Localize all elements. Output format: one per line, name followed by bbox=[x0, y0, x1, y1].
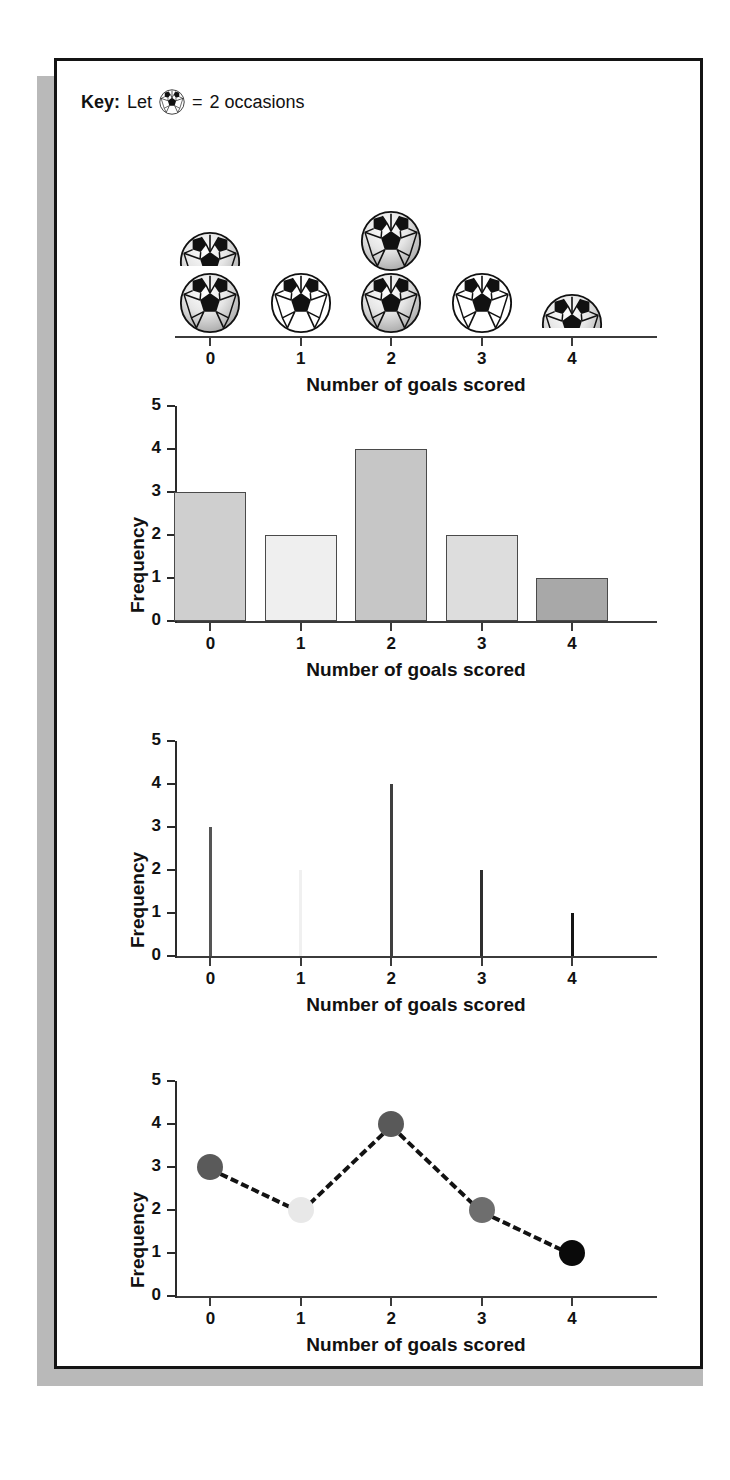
y-axis-label-4: 4 bbox=[141, 1113, 161, 1133]
spike-4 bbox=[571, 913, 574, 956]
x-tick-0 bbox=[209, 957, 211, 966]
x-axis-label-3: 3 bbox=[462, 969, 502, 989]
bar-4 bbox=[536, 578, 608, 621]
pictogram-ball-2-0 bbox=[360, 272, 422, 334]
x-tick-1 bbox=[300, 622, 302, 631]
x-tick-2 bbox=[390, 622, 392, 631]
x-tick-4 bbox=[571, 337, 573, 346]
x-axis-label-4: 4 bbox=[552, 969, 592, 989]
x-tick-2 bbox=[390, 1297, 392, 1306]
line-segment-1 bbox=[299, 1125, 392, 1214]
x-tick-4 bbox=[571, 957, 573, 966]
x-tick-4 bbox=[571, 1297, 573, 1306]
y-axis-label-4: 4 bbox=[141, 773, 161, 793]
bar-0 bbox=[174, 492, 246, 621]
x-tick-3 bbox=[481, 957, 483, 966]
x-axis-label-4: 4 bbox=[552, 349, 592, 369]
x-tick-0 bbox=[209, 337, 211, 346]
x-axis-label-1: 1 bbox=[281, 969, 321, 989]
bar-1 bbox=[265, 535, 337, 621]
pictogram-ball-2-1 bbox=[360, 210, 422, 272]
x-axis-label-3: 3 bbox=[462, 1309, 502, 1329]
x-axis-label-1: 1 bbox=[281, 1309, 321, 1329]
x-axis-label-1: 1 bbox=[281, 634, 321, 654]
x-tick-3 bbox=[481, 622, 483, 631]
pictogram-ball-0-0 bbox=[179, 272, 241, 334]
x-axis-title: Number of goals scored bbox=[175, 994, 657, 1016]
x-axis-label-2: 2 bbox=[371, 349, 411, 369]
line-chart: 01234501234Number of goals scoredFrequen… bbox=[57, 1061, 700, 1361]
card-shadow-left bbox=[37, 76, 54, 1386]
x-tick-0 bbox=[209, 622, 211, 631]
y-tick-2 bbox=[167, 869, 175, 871]
x-tick-2 bbox=[390, 957, 392, 966]
x-axis-line bbox=[175, 621, 657, 623]
y-tick-2 bbox=[167, 1209, 175, 1211]
y-axis-label-5: 5 bbox=[141, 395, 161, 415]
x-axis-label-2: 2 bbox=[371, 969, 411, 989]
x-tick-1 bbox=[300, 957, 302, 966]
key-value-label: 2 occasions bbox=[210, 92, 305, 113]
x-axis-line bbox=[175, 336, 657, 338]
x-tick-4 bbox=[571, 622, 573, 631]
x-axis-label-4: 4 bbox=[552, 1309, 592, 1329]
x-axis-title: Number of goals scored bbox=[175, 1334, 657, 1356]
pictogram-ball-3-0 bbox=[451, 272, 513, 334]
spike-2 bbox=[390, 784, 393, 956]
y-axis-label-3: 3 bbox=[141, 816, 161, 836]
x-tick-3 bbox=[481, 337, 483, 346]
line-segment-2 bbox=[390, 1125, 483, 1214]
spike-3 bbox=[480, 870, 483, 956]
y-axis-label-3: 3 bbox=[141, 481, 161, 501]
y-tick-3 bbox=[167, 1166, 175, 1168]
data-point-4 bbox=[559, 1240, 585, 1266]
y-tick-3 bbox=[167, 826, 175, 828]
data-point-1 bbox=[288, 1197, 314, 1223]
y-axis-title: Frequency bbox=[127, 852, 149, 948]
y-tick-0 bbox=[167, 1295, 175, 1297]
y-tick-1 bbox=[167, 1252, 175, 1254]
x-axis-label-4: 4 bbox=[552, 634, 592, 654]
y-axis-line bbox=[175, 1081, 177, 1298]
y-axis-label-4: 4 bbox=[141, 438, 161, 458]
pictogram-ball-1-0 bbox=[270, 272, 332, 334]
x-axis-label-2: 2 bbox=[371, 1309, 411, 1329]
y-axis-label-0: 0 bbox=[141, 610, 161, 630]
y-tick-4 bbox=[167, 1123, 175, 1125]
x-tick-1 bbox=[300, 337, 302, 346]
y-axis-title: Frequency bbox=[127, 1192, 149, 1288]
key-equals-label: = bbox=[192, 92, 203, 113]
x-axis-title: Number of goals scored bbox=[175, 659, 657, 681]
pictogram-ball-half-0 bbox=[179, 231, 241, 266]
x-axis-label-0: 0 bbox=[190, 349, 230, 369]
spike-1 bbox=[299, 870, 302, 956]
data-point-3 bbox=[469, 1197, 495, 1223]
x-tick-2 bbox=[390, 337, 392, 346]
vertical-line-chart: 01234501234Number of goals scoredFrequen… bbox=[57, 721, 700, 1021]
page-root: Key: Let = 2 occasions 01234Number of go… bbox=[0, 0, 730, 1480]
pictogram-key: Key: Let = 2 occasions bbox=[81, 89, 305, 115]
y-tick-5 bbox=[167, 405, 175, 407]
card-shadow-bottom bbox=[37, 1369, 703, 1386]
y-tick-0 bbox=[167, 955, 175, 957]
x-axis-label-0: 0 bbox=[190, 969, 230, 989]
bar-3 bbox=[446, 535, 518, 621]
soccer-ball-icon bbox=[159, 89, 185, 115]
y-tick-4 bbox=[167, 448, 175, 450]
y-tick-5 bbox=[167, 740, 175, 742]
figure-inner: Key: Let = 2 occasions 01234Number of go… bbox=[57, 61, 700, 1366]
y-tick-1 bbox=[167, 912, 175, 914]
y-axis-label-5: 5 bbox=[141, 730, 161, 750]
y-tick-4 bbox=[167, 783, 175, 785]
pictogram-ball-half-4 bbox=[541, 293, 603, 328]
y-axis-label-5: 5 bbox=[141, 1070, 161, 1090]
figure-card: Key: Let = 2 occasions 01234Number of go… bbox=[54, 58, 703, 1369]
spike-0 bbox=[209, 827, 212, 956]
y-axis-label-0: 0 bbox=[141, 945, 161, 965]
y-axis-label-0: 0 bbox=[141, 1285, 161, 1305]
x-axis-label-1: 1 bbox=[281, 349, 321, 369]
x-tick-1 bbox=[300, 1297, 302, 1306]
x-axis-label-0: 0 bbox=[190, 634, 230, 654]
x-tick-3 bbox=[481, 1297, 483, 1306]
x-axis-label-3: 3 bbox=[462, 634, 502, 654]
